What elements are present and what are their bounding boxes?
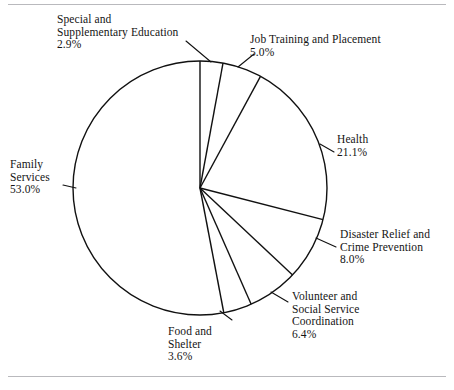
slice-label-line: Family <box>10 158 50 171</box>
slice-value: 53.0% <box>10 183 50 196</box>
slice-label-food-and-shelter: Food and Shelter 3.6% <box>168 325 212 363</box>
slice-label-line: Job Training and Placement <box>250 33 381 46</box>
slice-label-family-services: Family Services 53.0% <box>10 158 50 196</box>
leader-line-disaster <box>316 238 336 247</box>
leader-line-family <box>63 185 76 188</box>
slice-value: 2.9% <box>57 38 178 51</box>
slice-label-line: Health <box>337 133 368 146</box>
slice-value: 5.0% <box>250 46 381 59</box>
slice-label-line: Services <box>10 171 50 184</box>
slice-label-job-training-and-placement: Job Training and Placement 5.0% <box>250 33 381 58</box>
slice-label-line: Food and <box>168 325 212 338</box>
slice-label-line: Volunteer and <box>292 290 360 303</box>
slice-divider-5 <box>200 188 251 304</box>
slice-label-line: Coordination <box>292 315 360 328</box>
slice-label-disaster-relief-and-crime-prevention: Disaster Relief and Crime Prevention 8.0… <box>340 228 430 266</box>
slice-label-line: Crime Prevention <box>340 241 430 254</box>
slice-label-line: Special and <box>57 13 178 26</box>
leader-line-volunteer <box>271 292 288 302</box>
pie-chart-figure: Special and Supplementary Education 2.9%… <box>0 0 454 390</box>
slice-label-line: Supplementary Education <box>57 26 178 39</box>
slice-label-volunteer-and-social-service-coordination: Volunteer and Social Service Coordinatio… <box>292 290 360 340</box>
slice-label-line: Disaster Relief and <box>340 228 430 241</box>
slice-value: 8.0% <box>340 253 430 266</box>
slice-label-special-and-supplementary-education: Special and Supplementary Education 2.9% <box>57 13 178 51</box>
slice-label-line: Shelter <box>168 338 212 351</box>
slice-divider-3 <box>200 188 323 220</box>
slice-divider-2 <box>200 76 260 188</box>
slice-label-health: Health 21.1% <box>337 133 368 158</box>
pie-slice-dividers <box>200 61 323 313</box>
slice-label-line: Social Service <box>292 303 360 316</box>
leader-line-special <box>186 41 211 62</box>
slice-value: 6.4% <box>292 328 360 341</box>
slice-value: 21.1% <box>337 146 368 159</box>
pie-chart-graphic <box>0 0 454 390</box>
slice-value: 3.6% <box>168 350 212 363</box>
slice-divider-1 <box>200 63 223 188</box>
